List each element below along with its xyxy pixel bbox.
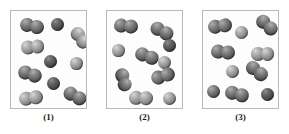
diatomic-molecule bbox=[224, 84, 250, 103]
single-atom bbox=[226, 65, 239, 78]
atom-sphere bbox=[235, 26, 248, 39]
atom-sphere bbox=[261, 88, 274, 101]
panel-caption-3: (3) bbox=[202, 112, 279, 122]
molecule-panel-3 bbox=[202, 10, 279, 109]
atom-sphere bbox=[207, 85, 220, 98]
panel-caption-1: (1) bbox=[10, 112, 87, 122]
atom-sphere bbox=[44, 55, 57, 68]
atom-sphere bbox=[47, 77, 60, 90]
single-atom bbox=[163, 92, 176, 105]
diatomic-molecule bbox=[210, 44, 235, 60]
atom-sphere bbox=[226, 65, 239, 78]
diatomic-molecule bbox=[114, 67, 133, 93]
panel-content-2 bbox=[107, 11, 182, 108]
atom-sphere bbox=[261, 47, 275, 61]
diatomic-molecule bbox=[207, 17, 233, 34]
diatomic-molecule bbox=[149, 66, 176, 86]
single-atom bbox=[261, 88, 274, 101]
atom-sphere bbox=[220, 45, 235, 60]
atom-sphere bbox=[51, 18, 64, 31]
single-atom bbox=[47, 77, 60, 90]
atom-sphere bbox=[163, 92, 176, 105]
diatomic-molecule bbox=[133, 45, 160, 66]
atom-sphere bbox=[70, 57, 83, 70]
single-atom bbox=[235, 26, 248, 39]
single-atom bbox=[44, 55, 57, 68]
atom-sphere bbox=[139, 91, 153, 105]
atom-sphere bbox=[29, 19, 46, 36]
atom-sphere bbox=[112, 44, 125, 57]
diatomic-molecule bbox=[18, 89, 43, 106]
single-atom bbox=[207, 85, 220, 98]
diatomic-molecule bbox=[113, 18, 138, 34]
single-atom bbox=[51, 18, 64, 31]
panel-content-3 bbox=[203, 11, 278, 108]
atom-sphere bbox=[123, 19, 138, 34]
atom-sphere bbox=[163, 39, 176, 52]
diatomic-molecule bbox=[61, 84, 86, 108]
atom-sphere bbox=[30, 39, 45, 54]
molecule-panel-2 bbox=[106, 10, 183, 109]
diatomic-molecule bbox=[16, 64, 43, 84]
diatomic-molecule bbox=[19, 17, 45, 36]
atom-sphere bbox=[28, 89, 44, 105]
diatomic-molecule bbox=[68, 24, 86, 51]
atom-sphere bbox=[233, 87, 250, 104]
single-atom bbox=[70, 57, 83, 70]
single-atom bbox=[163, 39, 176, 52]
diatomic-molecule bbox=[20, 39, 44, 55]
panel-content-1 bbox=[11, 11, 86, 108]
molecule-panel-1 bbox=[10, 10, 87, 109]
diatomic-molecule bbox=[253, 12, 278, 38]
single-atom bbox=[112, 44, 125, 57]
diatomic-molecule bbox=[129, 91, 153, 106]
diatomic-molecule bbox=[243, 58, 270, 83]
molecular-diagram-figure: (1)(2)(3) bbox=[0, 0, 289, 134]
panel-caption-2: (2) bbox=[106, 112, 183, 122]
diatomic-molecule bbox=[251, 47, 274, 61]
